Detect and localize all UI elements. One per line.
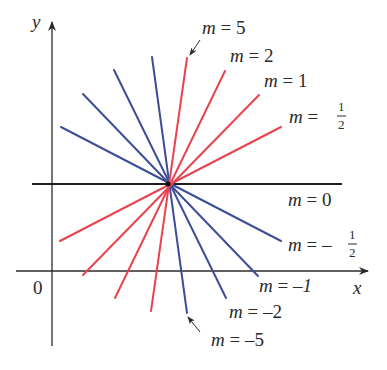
y-axis-label: y	[30, 11, 41, 32]
axes: y x 0	[16, 11, 368, 346]
label-slope-half: m = 1 2	[289, 99, 346, 132]
label-slope-0: m = 0	[288, 189, 331, 210]
label-slope-5: m = 5	[202, 17, 245, 38]
slope-family-diagram: y x 0 m = 5 m = 2 m = 1 m = 1	[0, 0, 387, 370]
label-slope-2: m = 2	[230, 45, 273, 66]
x-axis-label: x	[352, 277, 362, 298]
svg-text:1: 1	[338, 99, 345, 114]
common-point	[166, 182, 171, 187]
label-slope-1: m = 1	[264, 70, 307, 91]
svg-text:2: 2	[338, 117, 345, 132]
svg-text:1: 1	[349, 227, 356, 242]
origin-label: 0	[33, 277, 43, 298]
label-slope-neg-1: m = –1	[259, 275, 312, 296]
label-slope-neg-5: m = –5	[211, 329, 264, 350]
svg-text:m =: m =	[289, 106, 318, 127]
pointer-arrow-slope-5	[190, 40, 200, 55]
svg-text:2: 2	[349, 245, 356, 260]
svg-text:m = –: m = –	[288, 234, 332, 255]
label-slope-neg-half: m = – 1 2	[288, 227, 357, 260]
label-slope-neg-2: m = –2	[229, 301, 282, 322]
pointer-arrow-slope-neg-5	[188, 317, 200, 332]
